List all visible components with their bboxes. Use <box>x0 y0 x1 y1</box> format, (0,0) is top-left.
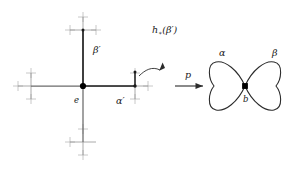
label-beta-prime: β′ <box>93 45 101 55</box>
label-identity-e: e <box>74 96 79 105</box>
label-map-p: p <box>185 70 191 80</box>
label-loop-alpha: α <box>219 48 225 58</box>
cayley-graph-group <box>13 12 165 160</box>
vertex-lift-beta-prime <box>134 71 137 74</box>
vertex-beta-prime <box>82 29 85 32</box>
label-loop-beta: β <box>272 48 278 58</box>
label-lift-arg: (β′) <box>162 24 177 35</box>
figure-container: β′ e α′ h∗(β′) p α β b <box>0 0 299 170</box>
loop-alpha <box>209 62 245 111</box>
cayley-generator-edges <box>83 30 135 86</box>
lift-pointer-arrow <box>139 63 165 77</box>
map-arrow-group <box>175 83 203 89</box>
label-lift-h-star-beta-prime: h∗(β′) <box>152 25 177 36</box>
figure-svg <box>0 0 299 170</box>
label-basepoint-b: b <box>243 95 248 104</box>
label-alpha-prime: α′ <box>116 96 125 106</box>
vertex-basepoint-b <box>242 83 248 89</box>
vertex-identity-e <box>80 83 86 89</box>
loop-beta <box>245 62 281 111</box>
vertex-alpha-prime <box>133 84 136 87</box>
